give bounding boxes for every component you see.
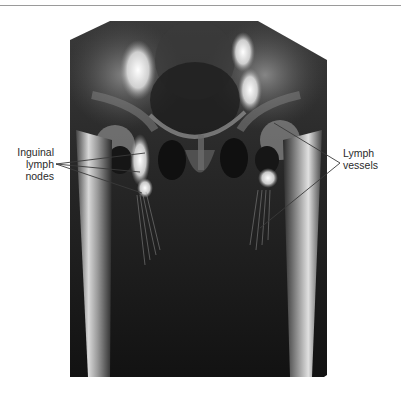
label-line: vessels <box>343 159 401 171</box>
label-line: Lymph <box>343 147 401 159</box>
label-line: lymph <box>0 158 54 170</box>
radiograph-figure <box>0 0 401 398</box>
label-line: Inguinal <box>0 146 54 158</box>
xray-film <box>65 20 328 378</box>
label-inguinal-lymph-nodes: Inguinal lymph nodes <box>0 146 54 182</box>
label-lymph-vessels: Lymph vessels <box>343 147 401 171</box>
label-line: nodes <box>0 170 54 182</box>
